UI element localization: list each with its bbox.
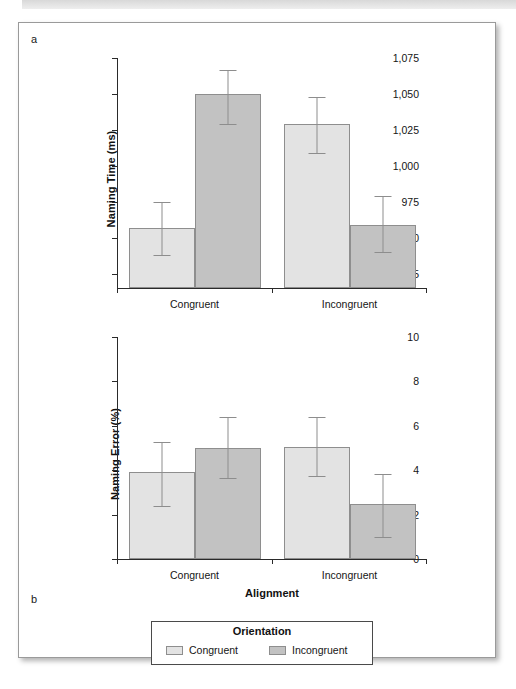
x-axis-tick bbox=[272, 288, 273, 293]
y-axis-tick bbox=[112, 381, 117, 382]
error-bar-incongruent-congruent bbox=[284, 97, 350, 153]
error-bar-cap-top bbox=[374, 474, 391, 475]
figure-frame: a Naming Time (ms) 9259509751,0001,0251,… bbox=[18, 22, 496, 658]
y-axis-tick bbox=[112, 130, 117, 131]
legend-title: Orientation bbox=[152, 625, 372, 637]
y-axis-tick-label: 6 bbox=[413, 420, 419, 432]
error-bar-cap-bottom bbox=[219, 478, 236, 479]
error-bar-stem bbox=[161, 442, 162, 505]
y-axis-tick-label: 1,025 bbox=[393, 124, 419, 136]
legend-label-incongruent: Incongruent bbox=[292, 644, 347, 656]
error-bar-stem bbox=[227, 70, 228, 125]
error-bar-cap-top bbox=[308, 97, 325, 98]
y-axis-tick bbox=[112, 58, 117, 59]
y-axis-tick-label: 10 bbox=[407, 331, 419, 343]
panel-b: b Naming Error (%) 0246810CongruentIncon… bbox=[19, 305, 497, 605]
panel-b-label: b bbox=[31, 593, 37, 605]
error-bar-cap-top bbox=[153, 442, 170, 443]
y-axis-tick bbox=[112, 274, 117, 275]
y-axis-tick-label: 1,075 bbox=[393, 52, 419, 64]
error-bar-cap-bottom bbox=[219, 124, 236, 125]
error-bar-stem bbox=[382, 196, 383, 252]
error-bar-cap-bottom bbox=[308, 153, 325, 154]
x-axis-tick bbox=[426, 559, 427, 564]
legend-entry-incongruent: Incongruent bbox=[269, 644, 347, 656]
x-axis-tick bbox=[117, 559, 118, 564]
x-axis-tick bbox=[117, 288, 118, 293]
error-bar-cap-top bbox=[219, 70, 236, 71]
x-axis-category-label: Congruent bbox=[170, 569, 219, 581]
panel-a-plot-area: 9259509751,0001,0251,0501,075CongruentIn… bbox=[117, 58, 427, 288]
error-bar-stem bbox=[382, 474, 383, 537]
y-axis-tick-label: 1,000 bbox=[393, 160, 419, 172]
error-bar-congruent-incongruent bbox=[195, 417, 261, 478]
legend-swatch-congruent bbox=[166, 646, 183, 655]
error-bar-incongruent-incongruent bbox=[350, 474, 416, 537]
y-axis-tick bbox=[112, 166, 117, 167]
y-axis-line bbox=[117, 337, 118, 559]
legend-swatch-incongruent bbox=[269, 646, 286, 655]
error-bar-stem bbox=[227, 417, 228, 478]
error-bar-congruent-congruent bbox=[129, 442, 195, 505]
error-bar-congruent-incongruent bbox=[195, 70, 261, 125]
legend-entry-congruent: Congruent bbox=[166, 644, 238, 656]
y-axis-tick-label: 8 bbox=[413, 375, 419, 387]
error-bar-cap-bottom bbox=[374, 252, 391, 253]
error-bar-cap-top bbox=[153, 202, 170, 203]
panel-a-label: a bbox=[31, 33, 37, 45]
y-axis-tick bbox=[112, 470, 117, 471]
error-bar-incongruent-congruent bbox=[284, 417, 350, 476]
x-axis-tick bbox=[272, 559, 273, 564]
error-bar-stem bbox=[161, 202, 162, 255]
error-bar-cap-top bbox=[374, 196, 391, 197]
y-axis-tick bbox=[112, 94, 117, 95]
error-bar-incongruent-incongruent bbox=[350, 196, 416, 252]
scanned-page-top-band bbox=[22, 0, 516, 9]
y-axis-tick bbox=[112, 202, 117, 203]
y-axis-tick bbox=[112, 426, 117, 427]
y-axis-line bbox=[117, 58, 118, 288]
error-bar-cap-top bbox=[219, 417, 236, 418]
y-axis-tick bbox=[112, 238, 117, 239]
error-bar-cap-bottom bbox=[153, 506, 170, 507]
error-bar-cap-top bbox=[308, 417, 325, 418]
y-axis-tick bbox=[112, 515, 117, 516]
legend: Orientation Congruent Incongruent bbox=[151, 621, 373, 665]
error-bar-stem bbox=[316, 417, 317, 476]
x-axis-title: Alignment bbox=[245, 587, 299, 599]
error-bar-cap-bottom bbox=[374, 537, 391, 538]
y-axis-tick bbox=[112, 337, 117, 338]
legend-label-congruent: Congruent bbox=[189, 644, 238, 656]
error-bar-stem bbox=[316, 97, 317, 153]
y-axis-tick-label: 1,050 bbox=[393, 88, 419, 100]
x-axis-tick bbox=[426, 288, 427, 293]
panel-a-y-axis-title: Naming Time (ms) bbox=[105, 131, 117, 228]
panel-b-plot-area: 0246810CongruentIncongruent bbox=[117, 337, 427, 559]
x-axis-category-label: Incongruent bbox=[322, 569, 377, 581]
error-bar-congruent-congruent bbox=[129, 202, 195, 255]
error-bar-cap-bottom bbox=[153, 255, 170, 256]
panel-a: a Naming Time (ms) 9259509751,0001,0251,… bbox=[19, 23, 497, 313]
error-bar-cap-bottom bbox=[308, 476, 325, 477]
